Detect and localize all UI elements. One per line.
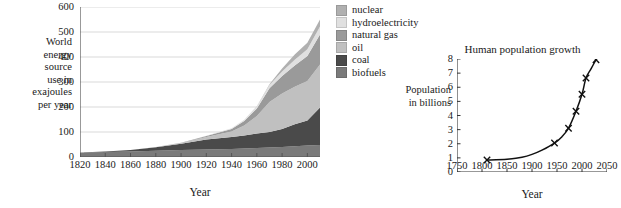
legend-swatch-icon-coal [336, 55, 347, 66]
population-y-tick-8: 8 [443, 54, 453, 65]
population-y-tick-4: 4 [443, 111, 453, 122]
energy-plot-area [80, 7, 320, 157]
energy-x-axis-label: Year [80, 186, 320, 198]
population-y-axis-label-line-2: in billions [383, 97, 451, 110]
legend-item-nuclear[interactable]: nuclear [336, 4, 428, 17]
population-marker-1945 [551, 140, 557, 146]
population-y-tick-3: 3 [443, 125, 453, 136]
energy-y-axis-label-line-3: source [2, 61, 72, 74]
population-x-axis-label: Year [457, 188, 607, 200]
energy-area-svg [80, 7, 320, 157]
energy-y-tick-200: 200 [40, 102, 74, 113]
population-plot-area [457, 59, 607, 172]
population-y-tick-2: 2 [443, 139, 453, 150]
population-line-svg [457, 59, 607, 172]
legend-swatch-icon-hydroelectricity [336, 17, 347, 28]
population-marker-1973 [565, 125, 571, 131]
legend-label: oil [352, 43, 363, 54]
population-data-markers [484, 59, 599, 163]
energy-y-tick-100: 100 [40, 127, 74, 138]
human-population-growth-chart: Human population growth Population in bi… [385, 40, 617, 208]
population-marker-1988 [573, 108, 579, 114]
legend-swatch-icon-biofuels [336, 67, 347, 78]
population-chart-title: Human population growth [435, 43, 610, 55]
legend-swatch-icon-oil [336, 42, 347, 53]
world-energy-source-chart: World energy source use in exajoules per… [0, 0, 330, 208]
legend-label: coal [352, 55, 370, 66]
energy-y-axis-label-line-1: World [2, 36, 72, 49]
energy-x-tick-2000: 2000 [292, 160, 322, 171]
legend-label: hydroelectricity [352, 18, 418, 29]
legend-label: natural gas [352, 30, 398, 41]
energy-y-tick-400: 400 [40, 52, 74, 63]
energy-y-tick-300: 300 [40, 77, 74, 88]
legend-swatch-icon-nuclear [336, 5, 347, 16]
population-y-tick-7: 7 [443, 68, 453, 79]
legend-label: biofuels [352, 68, 386, 79]
population-y-axis-label: Population in billions [383, 84, 451, 109]
legend-item-hydroelectricity[interactable]: hydroelectricity [336, 17, 428, 30]
population-y-axis-label-line-1: Population [383, 84, 451, 97]
population-y-tick-6: 6 [443, 82, 453, 93]
energy-y-axis-label-line-5: exajoules [2, 86, 72, 99]
legend-swatch-icon-natural-gas [336, 30, 347, 41]
population-y-tick-5: 5 [443, 96, 453, 107]
energy-y-tick-600: 600 [40, 2, 74, 13]
energy-y-tick-500: 500 [40, 27, 74, 38]
legend-label: nuclear [352, 5, 383, 16]
population-growth-curve [487, 60, 596, 160]
